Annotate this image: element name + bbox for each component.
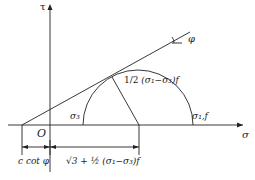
c-cot-phi-label: c cot φ [18, 157, 49, 166]
origin-label: O [37, 128, 46, 139]
sigma1f-label: σ₁,f [192, 112, 208, 121]
radius-label: 1/2 (σ₁−σ₃)f [124, 76, 179, 85]
mohr-coulomb-diagram [0, 0, 255, 180]
sigma3-label: σ₃ [70, 112, 80, 121]
sigma-axis-label: σ [242, 130, 249, 140]
tau-axis-label: τ [40, 2, 46, 12]
radius-dim-label: √3 + ½ (σ₁−σ₃)f [66, 157, 140, 166]
angle-label: φ [188, 34, 195, 44]
